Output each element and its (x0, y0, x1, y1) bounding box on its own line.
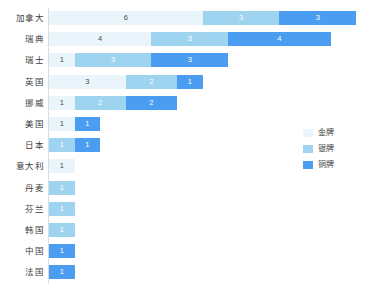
bar-segment-value: 6 (49, 11, 203, 25)
bar-row: 法国1 (0, 262, 373, 282)
bar-segment-value: 3 (151, 32, 228, 46)
bar-segment-value: 1 (49, 117, 75, 131)
bar-segment-gold: 1 (49, 117, 75, 131)
stacked-bar: 1 (49, 199, 75, 219)
stacked-bar: 11 (49, 114, 100, 134)
bar-segment-bronze: 1 (75, 138, 101, 152)
category-label: 英国 (0, 72, 44, 92)
bar-segment-bronze: 4 (228, 32, 330, 46)
legend-swatch-icon (303, 145, 313, 153)
bar-segment-value: 1 (75, 138, 101, 152)
stacked-bar: 434 (49, 29, 331, 49)
bar-segment-gold: 4 (49, 32, 151, 46)
bar-segment-silver: 1 (49, 181, 75, 195)
bar-segment-value: 2 (126, 96, 177, 110)
bar-segment-value: 1 (49, 96, 75, 110)
bar-segment-bronze: 1 (49, 265, 75, 279)
bar-row: 加拿大633 (0, 8, 373, 28)
bar-segment-silver: 1 (49, 223, 75, 237)
bar-segment-silver: 1 (49, 202, 75, 216)
category-label: 加拿大 (0, 8, 44, 28)
category-label: 瑞典 (0, 29, 44, 49)
bar-segment-value: 1 (177, 75, 203, 89)
bar-row: 中国1 (0, 241, 373, 261)
bar-segment-value: 3 (49, 75, 126, 89)
bar-segment-bronze: 1 (75, 117, 101, 131)
stacked-bar: 1 (49, 156, 75, 176)
category-label: 日本 (0, 135, 44, 155)
bar-segment-value: 1 (49, 159, 75, 173)
bar-segment-value: 1 (49, 202, 75, 216)
stacked-bar: 321 (49, 72, 203, 92)
stacked-bar: 1 (49, 178, 75, 198)
bar-segment-value: 2 (126, 75, 177, 89)
bar-segment-gold: 6 (49, 11, 203, 25)
category-label: 芬兰 (0, 199, 44, 219)
bar-row: 丹麦1 (0, 178, 373, 198)
bar-segment-silver: 3 (151, 32, 228, 46)
bar-segment-value: 3 (75, 53, 152, 67)
stacked-bar: 1 (49, 220, 75, 240)
category-label: 丹麦 (0, 178, 44, 198)
bar-segment-value: 1 (49, 181, 75, 195)
category-label: 法国 (0, 262, 44, 282)
bar-segment-value: 3 (151, 53, 228, 67)
bar-segment-bronze: 3 (279, 11, 356, 25)
legend-label: 银牌 (318, 142, 335, 155)
bar-segment-bronze: 2 (126, 96, 177, 110)
stacked-bar: 133 (49, 50, 228, 70)
legend-item[interactable]: 金牌 (303, 126, 373, 139)
bar-segment-gold: 3 (49, 75, 126, 89)
category-label: 韩国 (0, 220, 44, 240)
legend-item[interactable]: 铜牌 (303, 158, 373, 171)
bar-segment-value: 3 (279, 11, 356, 25)
bar-row: 瑞典434 (0, 29, 373, 49)
bar-segment-value: 2 (75, 96, 126, 110)
bar-segment-silver: 3 (203, 11, 280, 25)
bar-segment-value: 1 (49, 223, 75, 237)
bar-segment-gold: 1 (49, 159, 75, 173)
bar-row: 韩国1 (0, 220, 373, 240)
bar-segment-gold: 1 (49, 53, 75, 67)
legend-swatch-icon (303, 161, 313, 169)
category-label: 美国 (0, 114, 44, 134)
category-label: 瑞士 (0, 50, 44, 70)
bar-segment-bronze: 3 (151, 53, 228, 67)
bar-row: 挪威122 (0, 93, 373, 113)
bar-segment-value: 1 (49, 265, 75, 279)
legend-label: 金牌 (318, 126, 335, 139)
stacked-bar: 11 (49, 135, 100, 155)
legend-swatch-icon (303, 129, 313, 137)
legend-item[interactable]: 银牌 (303, 142, 373, 155)
stacked-bar: 122 (49, 93, 177, 113)
category-label: 中国 (0, 241, 44, 261)
bar-segment-value: 1 (75, 117, 101, 131)
category-label: 挪威 (0, 93, 44, 113)
stacked-bar: 1 (49, 241, 75, 261)
bar-segment-value: 1 (49, 244, 75, 258)
bar-segment-silver: 3 (75, 53, 152, 67)
bar-segment-value: 4 (49, 32, 151, 46)
bar-segment-value: 3 (203, 11, 280, 25)
medal-count-chart: 加拿大633瑞典434瑞士133英国321挪威122美国11日本11意大利1丹麦… (0, 0, 373, 307)
stacked-bar: 633 (49, 8, 356, 28)
bar-segment-silver: 2 (126, 75, 177, 89)
bar-segment-gold: 1 (49, 96, 75, 110)
bar-segment-bronze: 1 (177, 75, 203, 89)
bar-row: 英国321 (0, 72, 373, 92)
category-label: 意大利 (0, 156, 44, 176)
bar-segment-silver: 1 (49, 138, 75, 152)
chart-legend: 金牌银牌铜牌 (303, 126, 373, 174)
stacked-bar: 1 (49, 262, 75, 282)
bar-segment-bronze: 1 (49, 244, 75, 258)
bar-row: 瑞士133 (0, 50, 373, 70)
bar-segment-value: 4 (228, 32, 330, 46)
bar-segment-value: 1 (49, 138, 75, 152)
bar-segment-value: 1 (49, 53, 75, 67)
bar-row: 芬兰1 (0, 199, 373, 219)
bar-segment-silver: 2 (75, 96, 126, 110)
legend-label: 铜牌 (318, 158, 335, 171)
